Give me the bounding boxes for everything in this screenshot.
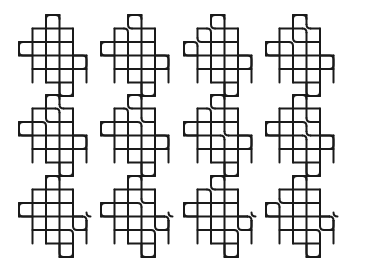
strand-cap [307,163,321,177]
knot-1 [19,15,87,96]
strand-cap [225,83,239,97]
knot-8 [266,95,334,176]
strand-cap [60,83,74,97]
knot-12 [266,176,338,257]
strand-cap [19,122,33,136]
strand-cap [184,203,198,217]
strand-cap [293,176,307,190]
strand-cap [184,122,198,136]
strand-cap [320,56,334,70]
knot-4 [266,15,334,96]
knot-11 [184,176,256,257]
knot-10 [101,176,173,257]
strand-cap [225,163,239,177]
strand-cap [320,136,334,150]
strand-cap [293,95,307,109]
strand-cap [60,244,74,258]
strand-cap [19,203,33,217]
knot-7 [184,95,252,176]
strand-cap [46,15,60,29]
strand-cap [101,122,115,136]
strand-cap [225,244,239,258]
strand-cap [266,42,280,56]
strand-cap [238,136,252,150]
strand-cap [101,42,115,56]
strand-cap [46,176,60,190]
strand-cap [142,244,156,258]
strand-cap [73,56,87,70]
knot-diagram-grid [0,0,365,267]
strand-cap [307,244,321,258]
knot-6 [101,95,169,176]
strand-cap [19,42,33,56]
strand-cap [101,203,115,217]
strand-cap [238,56,252,70]
strand-cap [142,163,156,177]
strand-cap [60,163,74,177]
strand-cap [142,83,156,97]
strand-cap [73,136,87,150]
strand-cap [155,136,169,150]
strand-cap [307,83,321,97]
strand-cap [128,176,142,190]
strand-cap [266,122,280,136]
strand-cap [155,56,169,70]
knot-5 [19,95,87,176]
knot-3 [184,15,252,96]
knot-9 [19,176,91,257]
knot-2 [101,15,169,96]
